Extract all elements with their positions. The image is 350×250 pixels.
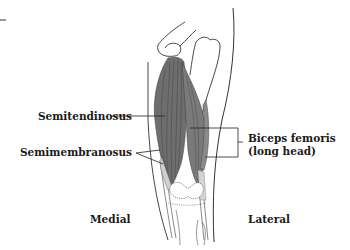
label-biceps-long-head: (long head) xyxy=(248,145,316,157)
label-biceps-femoris: Biceps femoris xyxy=(248,132,336,144)
semimembranosus-leader-2 xyxy=(136,153,163,164)
tibia-fibula xyxy=(176,210,205,245)
label-semimembranosus: Semimembranosus xyxy=(20,146,132,158)
femur-inner-edge xyxy=(190,42,196,75)
hamstring-diagram: Semitendinosus Semimembranosus Biceps fe… xyxy=(0,0,350,250)
label-semitendinosus: Semitendinosus xyxy=(38,110,132,122)
semimembranosus-leader-1 xyxy=(136,150,160,153)
leg-outline-lateral xyxy=(213,8,234,242)
ischium-bone xyxy=(158,22,196,56)
knee-condyles xyxy=(170,182,204,198)
label-lateral: Lateral xyxy=(248,213,290,225)
hamstring-illustration xyxy=(0,0,350,250)
label-medial: Medial xyxy=(90,213,130,225)
